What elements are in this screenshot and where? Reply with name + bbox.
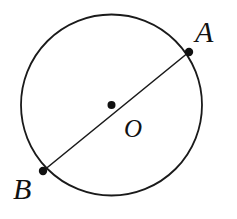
point-b-label: B — [13, 174, 31, 204]
point-b-marker — [39, 167, 47, 175]
point-a-label: A — [195, 17, 213, 47]
point-a-marker — [185, 48, 193, 56]
diameter-segment-ab — [43, 52, 189, 171]
circle-diagram-figure: A B O — [0, 0, 237, 219]
point-o-center-marker — [108, 101, 116, 109]
center-label: O — [124, 116, 142, 141]
